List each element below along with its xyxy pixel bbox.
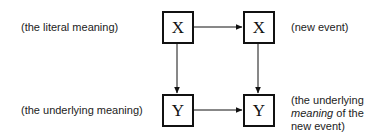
node-x-new-event: X bbox=[243, 11, 275, 44]
label-literal-meaning: (the literal meaning) bbox=[21, 21, 118, 34]
label-underlying-meaning-new-event: (the underlying meaning of the new event… bbox=[291, 94, 364, 133]
label-line-2: meaning of the bbox=[291, 107, 364, 120]
node-y-underlying: Y bbox=[162, 94, 194, 127]
node-x-literal: X bbox=[162, 11, 194, 44]
label-meaning-italic: meaning bbox=[291, 107, 333, 119]
label-new-event: (new event) bbox=[291, 21, 348, 34]
label-of-the: of the bbox=[333, 107, 364, 119]
label-line-3: new event) bbox=[291, 120, 364, 133]
node-y-underlying-new: Y bbox=[243, 94, 275, 127]
label-line-1: (the underlying bbox=[291, 94, 364, 107]
label-underlying-meaning: (the underlying meaning) bbox=[21, 104, 143, 117]
